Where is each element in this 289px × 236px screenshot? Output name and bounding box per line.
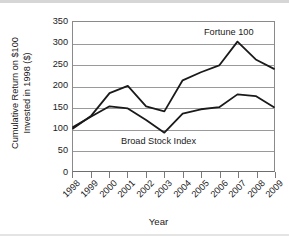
series-line-fortune-100 xyxy=(73,42,274,129)
y-axis-label-line2: Invested in 1998 ($) xyxy=(21,37,33,149)
y-axis-tick-label: 200 xyxy=(40,81,68,90)
y-axis-tick-label: 300 xyxy=(40,38,68,47)
y-axis-tick-label: 50 xyxy=(40,146,68,155)
x-axis-tick-label: 1998 xyxy=(61,178,83,200)
series-annotation-fortune-100: Fortune 100 xyxy=(204,27,254,37)
x-axis-tick-label: 2006 xyxy=(208,178,230,200)
x-axis-label: Year xyxy=(0,216,289,227)
x-axis-tick-label: 2009 xyxy=(264,178,286,200)
plot-area xyxy=(72,21,275,172)
series-lines xyxy=(73,22,274,171)
x-axis-tick-labels: 1998199920002001200220032004200520062007… xyxy=(0,178,289,212)
x-axis-tick-label: 2000 xyxy=(97,178,119,200)
x-axis-tick-label: 2003 xyxy=(153,178,175,200)
x-axis-tick-label: 2001 xyxy=(116,178,138,200)
y-axis-tick-label: 100 xyxy=(40,124,68,133)
x-axis-tick-label: 1999 xyxy=(79,178,101,200)
x-axis-label-text: Year xyxy=(149,216,168,227)
x-axis-tick-label: 2007 xyxy=(227,178,249,200)
y-axis-tick-label: 150 xyxy=(40,103,68,112)
series-annotation-broad-stock-index: Broad Stock Index xyxy=(121,136,196,146)
x-axis-tick-label: 2008 xyxy=(245,178,267,200)
y-axis-label-line1: Cumulative Return on $100 xyxy=(10,37,22,149)
y-axis-tick-label: 0 xyxy=(40,168,68,177)
y-axis-tick-label: 350 xyxy=(40,17,68,26)
y-axis-label: Cumulative Return on $100 Invested in 19… xyxy=(8,18,34,168)
x-axis-tick-label: 2004 xyxy=(171,178,193,200)
chart-container: Cumulative Return on $100 Invested in 19… xyxy=(0,0,289,236)
y-axis-tick-label: 250 xyxy=(40,60,68,69)
x-axis-tick-label: 2005 xyxy=(190,178,212,200)
x-axis-tick-label: 2002 xyxy=(134,178,156,200)
